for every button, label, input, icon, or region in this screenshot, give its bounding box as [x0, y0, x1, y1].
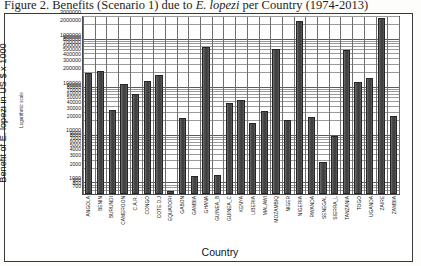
bar — [319, 162, 326, 194]
bar — [343, 50, 350, 194]
x-tick-slot: NIGER — [282, 196, 294, 246]
y-tick-label: 20000 — [36, 115, 81, 120]
bar-slot — [118, 17, 130, 194]
x-tick-label: SENEGAL — [321, 196, 326, 219]
bar — [155, 75, 162, 194]
x-tick-label: NIGERIA — [297, 196, 302, 216]
x-tick-label: ZAIRE — [380, 196, 385, 210]
x-tick-slot: CONGO — [141, 196, 153, 246]
x-tick-slot: MOZAMBIQ — [271, 196, 283, 246]
bar — [296, 21, 303, 194]
bar-slot — [130, 17, 142, 194]
bar-slot — [294, 17, 306, 194]
x-tick-label: GAMBIA — [191, 196, 196, 215]
bar-slot — [247, 17, 259, 194]
x-tick-slot: NIGERIA — [294, 196, 306, 246]
x-tick-label: CONGO — [144, 196, 149, 214]
caption-species: E. lopezi — [196, 0, 240, 12]
x-tick-slot: MALAWI — [259, 196, 271, 246]
bar-slot — [165, 17, 177, 194]
x-tick-slot: EQUATORI — [164, 196, 176, 246]
bar-slot — [177, 17, 189, 194]
y-tick-label: 200000 — [36, 67, 81, 72]
x-tick-slot: KENYA — [235, 196, 247, 246]
plot-area — [82, 16, 400, 195]
x-tick-slot: SIERRA_L — [329, 196, 341, 246]
y-axis-tick-labels: 3000000200000010000009000008000007000006… — [36, 16, 81, 195]
bar — [97, 71, 104, 194]
bar — [167, 191, 174, 194]
x-tick-label: COTE.D.J — [156, 196, 161, 218]
x-tick-label: GABON — [180, 196, 185, 214]
bar — [226, 103, 233, 194]
x-tick-slot: RWANDA — [306, 196, 318, 246]
bar — [390, 116, 397, 194]
x-tick-label: MALAWI — [262, 196, 267, 215]
bar-slot — [200, 17, 212, 194]
x-tick-slot: LIBERIA — [247, 196, 259, 246]
bar — [202, 47, 209, 194]
x-tick-label: C.A.R. — [133, 196, 138, 210]
bar — [284, 120, 291, 194]
bar-slot — [106, 17, 118, 194]
x-tick-label: ANGOLA — [85, 196, 90, 216]
x-tick-label: BENIN — [97, 196, 102, 211]
bar-slot — [282, 17, 294, 194]
x-axis-title: Country — [30, 246, 410, 258]
bar — [366, 78, 373, 194]
x-tick-slot: ZAMBIA — [388, 196, 400, 246]
x-tick-slot: COTE.D.J — [153, 196, 165, 246]
bar — [272, 49, 279, 194]
bar — [378, 18, 385, 194]
bar-slot — [83, 17, 95, 194]
x-tick-label: BURUNDI — [109, 196, 114, 218]
bar — [237, 100, 244, 194]
bar — [214, 175, 221, 194]
x-tick-label: LIBERIA — [250, 196, 255, 215]
bar-slot — [317, 17, 329, 194]
x-tick-slot: SENEGAL — [318, 196, 330, 246]
x-tick-label: GHANA — [203, 196, 208, 213]
x-tick-label: MOZAMBIQ — [274, 196, 279, 223]
x-tick-slot: BURUNDI — [106, 196, 118, 246]
x-tick-label: GUINEA_B — [215, 196, 220, 221]
bar-slot — [212, 17, 224, 194]
x-tick-slot: GUINEA_C — [223, 196, 235, 246]
bar — [85, 73, 92, 194]
caption-prefix: Figure 2. Benefits (Scenario 1) due to — [4, 0, 196, 12]
bar-slot — [188, 17, 200, 194]
y-axis-subtitle: Logarithmic scale — [16, 60, 28, 160]
bar-slot — [352, 17, 364, 194]
bar — [144, 81, 151, 194]
bar-slot — [340, 17, 352, 194]
bar-slot — [376, 17, 388, 194]
y-tick-label: 30000 — [36, 106, 81, 111]
x-tick-slot: C.A.R. — [129, 196, 141, 246]
x-tick-label: GUINEA_C — [227, 196, 232, 221]
x-tick-slot: GHANA — [200, 196, 212, 246]
bar — [179, 118, 186, 194]
bar — [132, 94, 139, 194]
bar-slot — [235, 17, 247, 194]
bar-slot — [95, 17, 107, 194]
x-tick-slot: TANZANIA — [341, 196, 353, 246]
x-tick-label: CAMEROON — [121, 196, 126, 225]
bar — [331, 136, 338, 194]
x-tick-slot: ZAIRE — [377, 196, 389, 246]
bar-slot — [259, 17, 271, 194]
y-tick-label: 2000 — [36, 162, 81, 167]
y-tick-label: 700 — [36, 184, 81, 189]
x-tick-label: EQUATORI — [168, 196, 173, 221]
x-axis-tick-labels: ANGOLABENINBURUNDICAMEROONC.A.R.CONGOCOT… — [82, 196, 400, 246]
bar — [261, 111, 268, 194]
bar-slot — [387, 17, 399, 194]
bar-slot — [270, 17, 282, 194]
y-axis-subtitle-wrap: Logarithmic scale — [16, 60, 28, 160]
x-tick-label: NIGER — [286, 196, 291, 212]
x-tick-slot: TOGO — [353, 196, 365, 246]
x-tick-label: KENYA — [239, 196, 244, 212]
x-tick-slot: UGANDA — [365, 196, 377, 246]
x-tick-slot: CAMEROON — [117, 196, 129, 246]
x-tick-label: SIERRA_L — [333, 196, 338, 220]
x-tick-label: TOGO — [356, 196, 361, 210]
